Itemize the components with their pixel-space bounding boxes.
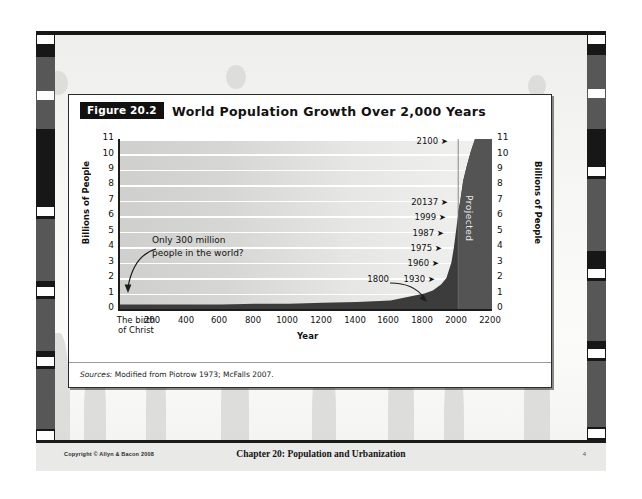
callout-label: 20137	[411, 197, 438, 207]
y-tick-right: 4	[497, 240, 511, 250]
y-tick-left: 0	[100, 302, 114, 312]
x-tick: 200	[144, 315, 160, 325]
film-notch	[37, 357, 54, 366]
film-notch	[37, 35, 54, 44]
x-axis-title: Year	[297, 331, 318, 341]
callout-1960: 1960 ➤	[408, 258, 439, 268]
figure-header: Figure 20.2 World Population Growth Over…	[69, 95, 551, 127]
film-frame	[36, 299, 55, 351]
y-tick-left: 11	[100, 132, 114, 142]
y-tick-left: 1	[100, 287, 114, 297]
annotation-line-1: Only 300 million	[152, 235, 226, 245]
y-tick-left: 2	[100, 271, 114, 281]
film-frame	[587, 179, 606, 251]
y-tick-right: 9	[497, 163, 511, 173]
callout-1999: 1999 ➤	[415, 212, 446, 222]
y-tick-right: 11	[497, 132, 511, 142]
callout-label: 1999	[415, 212, 437, 222]
film-notch	[37, 207, 54, 216]
callout-label: 1800	[367, 274, 389, 284]
x-tick: 800	[245, 315, 261, 325]
population-growth-chart: Billions of People Billions of People	[69, 127, 551, 355]
chart-annotation: Only 300 million people in the world?	[152, 234, 244, 260]
plot-area: Projected Only 300 million people in the…	[118, 139, 492, 311]
annotation-arrow-icon	[122, 243, 162, 298]
callout-2100: 2100 ➤	[417, 136, 448, 146]
annotation-line-2: people in the world?	[152, 248, 244, 258]
y-tick-right: 7	[497, 194, 511, 204]
film-strip-right	[587, 31, 606, 471]
y-tick-left: 9	[100, 163, 114, 173]
footer-chapter-title: Chapter 20: Population and Urbanization	[36, 449, 606, 459]
film-notch	[37, 91, 54, 100]
source-text: Modified from Piotrow 1973; McFalls 2007…	[112, 370, 273, 379]
y-tick-left: 4	[100, 240, 114, 250]
film-frame	[587, 361, 606, 427]
callout-1975: 1975 ➤	[411, 243, 442, 253]
y-tick-left: 7	[100, 194, 114, 204]
film-notch	[588, 167, 605, 176]
callout-2013: 20137 ➤	[411, 197, 448, 207]
y-tick-left: 3	[100, 256, 114, 266]
y-tick-left: 10	[100, 148, 114, 158]
x-tick: 2200	[479, 315, 501, 325]
y-tick-left: 8	[100, 178, 114, 188]
y-axis-title-right: Billions of People	[533, 161, 543, 244]
y-tick-right: 2	[497, 271, 511, 281]
callout-label: 1960	[408, 258, 430, 268]
figure-card: Figure 20.2 World Population Growth Over…	[68, 94, 552, 388]
x-tick: 1000	[276, 315, 298, 325]
x-tick: 1600	[377, 315, 399, 325]
figure-source: Sources: Modified from Piotrow 1973; McF…	[80, 370, 274, 379]
film-notch	[588, 349, 605, 358]
callout-label: 1975	[411, 243, 433, 253]
callout-1800-arrow-icon	[388, 279, 434, 305]
slide-top-rule	[36, 31, 606, 35]
film-notch	[37, 287, 54, 296]
y-tick-right: 0	[497, 302, 511, 312]
film-frame	[36, 369, 55, 429]
figure-divider	[69, 362, 551, 363]
x-tick: 400	[178, 315, 194, 325]
film-notch	[37, 431, 54, 440]
y-axis-title-left: Billions of People	[81, 161, 91, 244]
source-prefix: Sources:	[80, 370, 112, 379]
y-tick-right: 5	[497, 225, 511, 235]
film-frame	[36, 219, 55, 281]
x-tick: 1200	[310, 315, 332, 325]
y-tick-right: 8	[497, 178, 511, 188]
y-tick-right: 3	[497, 256, 511, 266]
film-strip-left	[36, 31, 55, 471]
x-tick: 600	[211, 315, 227, 325]
y-tick-right: 6	[497, 209, 511, 219]
footer-page-number: 4	[583, 451, 586, 457]
y-tick-right: 1	[497, 287, 511, 297]
presentation-slide: Figure 20.2 World Population Growth Over…	[36, 31, 606, 471]
slide-footer: Copyright © Allyn & Bacon 2008 Chapter 2…	[36, 443, 606, 471]
callout-label: 1987	[413, 228, 435, 238]
film-frame	[587, 281, 606, 341]
callout-1800: 1800	[367, 274, 389, 284]
population-curve	[120, 139, 492, 309]
x-tick: 1800	[411, 315, 433, 325]
x-tick: 1400	[344, 315, 366, 325]
film-notch	[588, 429, 605, 438]
figure-title: World Population Growth Over 2,000 Years	[172, 104, 486, 119]
y-tick-left: 5	[100, 225, 114, 235]
y-tick-left: 6	[100, 209, 114, 219]
x-tick: 2000	[445, 315, 467, 325]
y-tick-right: 10	[497, 148, 511, 158]
slide-page: Figure 20.2 World Population Growth Over…	[0, 0, 642, 499]
crowd-silhouette-head	[226, 65, 246, 89]
film-notch	[588, 35, 605, 44]
callout-label: 2100	[417, 136, 439, 146]
figure-number-badge: Figure 20.2	[80, 102, 164, 119]
callout-1987: 1987 ➤	[413, 228, 444, 238]
film-notch	[588, 269, 605, 278]
projected-band-label: Projected	[464, 195, 474, 242]
film-notch	[588, 89, 605, 98]
